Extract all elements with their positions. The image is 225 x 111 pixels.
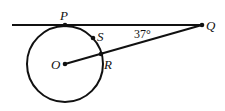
angle-label: 37° <box>134 27 151 41</box>
label-p: P <box>59 8 68 23</box>
label-s: S <box>97 29 104 44</box>
label-r: R <box>103 57 112 72</box>
label-q: Q <box>206 18 216 33</box>
label-o: O <box>51 57 61 72</box>
point-p <box>63 23 68 28</box>
point-q <box>200 23 205 28</box>
point-s <box>91 36 96 41</box>
point-r <box>99 52 104 57</box>
geometry-diagram: P S O R Q 37° <box>0 0 225 111</box>
point-o <box>63 62 68 67</box>
